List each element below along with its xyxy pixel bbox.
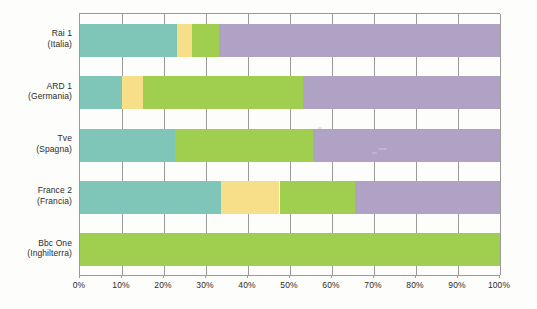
x-tick-label: 90% (448, 280, 465, 290)
x-tick-mark (331, 275, 332, 278)
category-label-line2: (Francia) (0, 196, 72, 207)
x-tick-mark (205, 275, 206, 278)
bar-segment-yellow (177, 24, 193, 57)
x-tick-mark (373, 275, 374, 278)
x-tick-label: 0% (73, 280, 86, 290)
x-tick-label: 20% (154, 280, 171, 290)
plot-area (79, 13, 500, 275)
bar-segment-purple (303, 76, 500, 109)
bar-segment-green (143, 76, 303, 109)
x-tick-label: 80% (406, 280, 423, 290)
x-tick-mark (499, 275, 500, 278)
x-tick-label: 60% (322, 280, 339, 290)
category-label-line1: Tve (58, 133, 72, 143)
category-label-line1: France 2 (38, 185, 72, 195)
x-tick-mark (79, 275, 80, 278)
x-tick-mark (289, 275, 290, 278)
bar-segment-teal (80, 76, 122, 109)
bar-segment-teal (80, 181, 221, 214)
x-tick-label: 10% (112, 280, 129, 290)
category-label-line1: ARD 1 (46, 81, 72, 91)
category-label: France 2(Francia) (0, 185, 72, 206)
category-label-line1: Rai 1 (52, 28, 72, 38)
x-tick-mark (415, 275, 416, 278)
scan-artifact (378, 148, 387, 150)
bar-segment-purple (219, 24, 500, 57)
scan-artifact (318, 127, 322, 129)
bar-segment-green (280, 181, 356, 214)
category-label-line2: (Inghilterra) (0, 248, 72, 259)
category-label: ARD 1(Germania) (0, 81, 72, 102)
scan-artifact (372, 152, 377, 154)
category-label: Bbc One(Inghilterra) (0, 238, 72, 259)
bar-segment-teal (80, 129, 175, 162)
category-label-line2: (Italia) (0, 39, 72, 50)
x-axis: 0%10%20%30%40%50%60%70%80%90%100% (79, 275, 500, 299)
category-label-line1: Bbc One (38, 238, 72, 248)
x-tick-mark (247, 275, 248, 278)
bar-segment-purple (313, 129, 500, 162)
x-tick-mark (163, 275, 164, 278)
x-tick-label: 100% (488, 280, 510, 290)
category-label-line2: (Germania) (0, 91, 72, 102)
bar-segment-yellow (221, 181, 280, 214)
x-tick-mark (121, 275, 122, 278)
stacked-bar-chart: Rai 1(Italia)ARD 1(Germania)Tve(Spagna)F… (0, 0, 537, 309)
x-tick-label: 30% (196, 280, 213, 290)
x-tick-label: 70% (364, 280, 381, 290)
category-label-line2: (Spagna) (0, 144, 72, 155)
bar-segment-purple (355, 181, 500, 214)
bar-row (80, 181, 500, 214)
x-tick-label: 40% (238, 280, 255, 290)
category-label: Rai 1(Italia) (0, 28, 72, 49)
bar-segment-green (192, 24, 218, 57)
category-axis: Rai 1(Italia)ARD 1(Germania)Tve(Spagna)F… (0, 13, 78, 275)
gridline (500, 14, 501, 275)
bar-row (80, 76, 500, 109)
x-tick-mark (457, 275, 458, 278)
category-label: Tve(Spagna) (0, 133, 72, 154)
bar-row (80, 129, 500, 162)
bar-segment-green (80, 233, 500, 266)
bar-segment-teal (80, 24, 177, 57)
bar-segment-yellow (122, 76, 143, 109)
bar-row (80, 233, 500, 266)
bar-row (80, 24, 500, 57)
bar-segment-green (175, 129, 314, 162)
x-tick-label: 50% (280, 280, 297, 290)
